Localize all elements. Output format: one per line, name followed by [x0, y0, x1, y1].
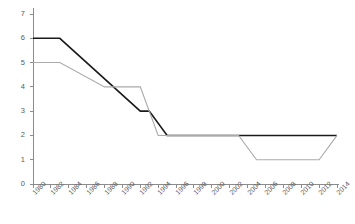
- y-tick-label-2: 2: [11, 131, 25, 139]
- chart-container: 01234567 1980198219841986198819901992199…: [0, 0, 355, 224]
- tick-layer: [30, 14, 337, 188]
- y-tick-label-4: 4: [11, 83, 25, 91]
- y-tick-label-5: 5: [11, 59, 25, 67]
- y-tick-label-6: 6: [11, 34, 25, 42]
- line-series-black: [33, 38, 337, 135]
- y-tick-label-1: 1: [11, 156, 25, 164]
- series-layer: [33, 38, 337, 159]
- line-series-gray: [33, 63, 337, 160]
- y-tick-label-3: 3: [11, 107, 25, 115]
- axis-layer: [33, 8, 339, 184]
- y-tick-label-0: 0: [11, 180, 25, 188]
- y-tick-label-7: 7: [11, 10, 25, 18]
